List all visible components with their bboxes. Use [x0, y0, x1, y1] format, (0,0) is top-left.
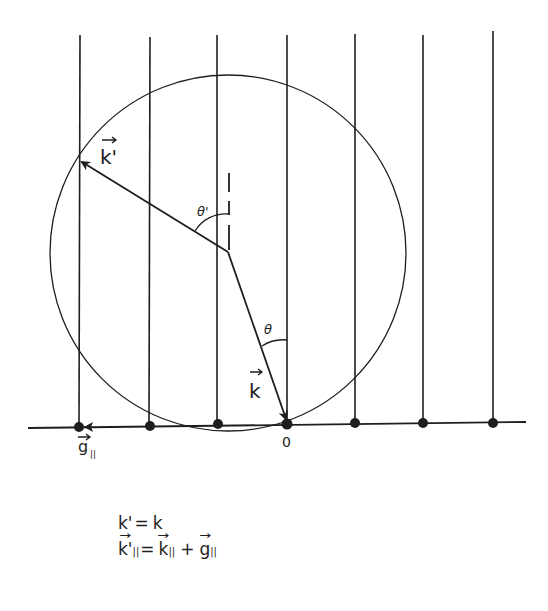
theta-label: θ — [264, 322, 272, 337]
svg-text:||: || — [90, 449, 96, 459]
origin-label: 0 — [282, 434, 291, 450]
eq2-rhs1: k — [159, 538, 169, 560]
svg-text:k: k — [249, 379, 261, 403]
lattice-rod — [79, 35, 80, 426]
lattice-point — [213, 419, 223, 429]
eq2-plus: + — [180, 538, 194, 560]
svg-text:g: g — [78, 437, 88, 456]
diffraction-diagram: θ' θ k' k g || 0 — [0, 0, 548, 611]
theta-prime-label: θ' — [197, 204, 209, 219]
equations: k' = k k'|| = k|| + g|| — [118, 512, 217, 563]
lattice-rod — [149, 37, 150, 425]
lattice-point — [145, 421, 155, 431]
lattice-point — [350, 418, 360, 428]
origin-point — [282, 419, 293, 430]
eq2-rhs2-sub: || — [210, 541, 217, 563]
eq2-lhs-sub: || — [133, 541, 140, 563]
eq2-rhs2: g — [199, 538, 210, 560]
lattice-rods — [79, 31, 493, 426]
theta-arc — [262, 340, 287, 346]
lattice-point — [488, 418, 498, 428]
reciprocal-points — [74, 418, 498, 432]
baseline — [28, 422, 526, 428]
svg-text:k': k' — [100, 145, 117, 169]
k-prime-label: k' — [100, 137, 117, 169]
eq2-equals: = — [140, 538, 154, 560]
eq2-lhs: k' — [118, 538, 133, 560]
eq2-rhs1-sub: || — [168, 541, 175, 563]
eq1-equals: = — [135, 512, 149, 534]
lattice-point — [74, 422, 84, 432]
g-parallel-label: g || — [78, 434, 96, 459]
lattice-point — [418, 418, 428, 428]
k-label: k — [249, 369, 262, 403]
equation-parallel: k'|| = k|| + g|| — [118, 538, 217, 563]
